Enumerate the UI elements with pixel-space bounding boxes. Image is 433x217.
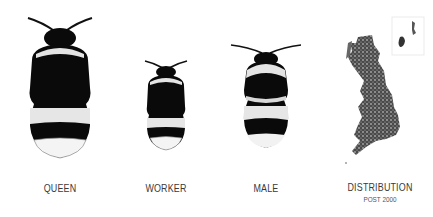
- bee-queen-icon: [20, 10, 100, 162]
- uk-distribution-map-icon: [338, 15, 430, 165]
- queen-label: QUEEN: [35, 182, 86, 194]
- distribution-map-figure: [338, 15, 430, 165]
- queen-bee-figure: [20, 10, 100, 162]
- distribution-label: DISTRIBUTION: [342, 181, 419, 193]
- worker-bee-figure: [140, 58, 192, 154]
- male-bee-figure: [228, 40, 304, 152]
- worker-label: WORKER: [141, 182, 192, 194]
- bee-male-icon: [228, 40, 304, 152]
- male-label: MALE: [241, 182, 292, 194]
- bee-worker-icon: [140, 58, 192, 154]
- distribution-sublabel: POST 2000: [350, 195, 410, 204]
